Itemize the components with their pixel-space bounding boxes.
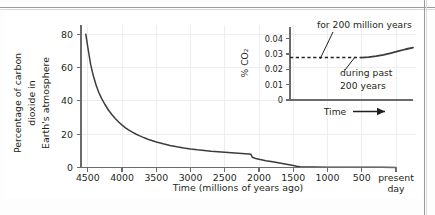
inset-y-tick-label: 0.02 xyxy=(265,64,283,74)
main-y-tick-labels: 020406080 xyxy=(61,29,73,173)
main-y-axis-title-line-3: Earth's atmosphere xyxy=(40,57,51,149)
main-gridlines xyxy=(81,25,416,168)
y-tick-label: 0 xyxy=(67,162,73,173)
x-tick-label: 500 xyxy=(353,172,371,183)
annotation-during-past-200-years: during past 200 years xyxy=(340,57,393,91)
main-y-axis-title: Percentage of carbon dioxide in Earth's … xyxy=(12,53,51,153)
x-tick-label-present-day-line-2: day xyxy=(387,183,405,194)
annotation-for-200-million-years-text: for 200 million years xyxy=(317,19,412,30)
y-tick-label: 60 xyxy=(61,62,73,73)
inset-y-tick-label: 0 xyxy=(278,95,283,105)
inset-y-tick-label: 0.01 xyxy=(265,80,283,90)
x-tick-label: 4000 xyxy=(110,172,134,183)
y-tick-label: 80 xyxy=(61,29,73,40)
annotation-during-past-200-years-line-1: during past xyxy=(340,67,393,78)
inset-arrow-head xyxy=(377,108,385,115)
inset-y-tick-labels: 00.010.020.030.04 xyxy=(265,34,283,105)
annotation-for-200-million-years: for 200 million years xyxy=(317,19,412,59)
inset-y-tick-label: 0.03 xyxy=(265,49,283,59)
co2-chart: 020406080 450040003500300025002000150010… xyxy=(0,0,435,215)
y-tick-label: 40 xyxy=(61,95,73,106)
main-y-axis-title-line-2: dioxide in xyxy=(26,80,37,125)
figure-root: 020406080 450040003500300025002000150010… xyxy=(0,0,435,215)
main-chart-group: 020406080 450040003500300025002000150010… xyxy=(12,25,416,195)
main-x-tick-marks xyxy=(88,168,396,173)
inset-y-axis-title-text: % CO₂ xyxy=(239,48,250,77)
x-tick-label: 1000 xyxy=(316,172,340,183)
main-x-axis-title: Time (millions of years ago) xyxy=(172,182,304,193)
inset-y-axis-title: % CO₂ xyxy=(239,48,250,77)
x-tick-label: 4500 xyxy=(76,172,100,183)
y-tick-label: 20 xyxy=(61,129,73,140)
x-tick-label-present-day-line-1: present xyxy=(378,172,414,183)
inset-rising-solid-series xyxy=(361,48,413,58)
inset-time-arrow-icon xyxy=(353,108,385,115)
annotation-for-200-million-years-leader xyxy=(320,32,333,59)
annotation-during-past-200-years-line-2: 200 years xyxy=(340,80,386,91)
inset-x-axis-title: Time xyxy=(323,106,347,117)
inset-y-tick-label: 0.04 xyxy=(265,34,283,44)
main-y-axis-title-line-1: Percentage of carbon xyxy=(12,53,23,153)
x-tick-label: 3500 xyxy=(144,172,168,183)
